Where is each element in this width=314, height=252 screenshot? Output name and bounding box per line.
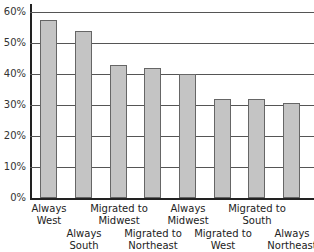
gridline [30, 167, 314, 168]
y-tick-label: 10% [0, 162, 26, 172]
bar [214, 99, 231, 198]
y-tick-label: 40% [0, 69, 26, 79]
gridline [30, 74, 314, 75]
gridline [30, 12, 314, 13]
gridline [30, 136, 314, 137]
x-axis [30, 198, 314, 200]
y-tick-label: 30% [0, 100, 26, 110]
y-tick-label: 20% [0, 131, 26, 141]
bar [40, 20, 57, 198]
x-tick-label: Migrated to Northeast [113, 228, 193, 252]
y-axis [30, 4, 32, 199]
bar [283, 103, 300, 198]
gridline [30, 105, 314, 106]
y-tick-label: 50% [0, 38, 26, 48]
x-tick-label: Always West [9, 203, 89, 227]
x-tick-label: Migrated to West [183, 228, 263, 252]
y-tick-label: 0% [0, 193, 26, 203]
bar [179, 74, 196, 198]
x-tick-label: Always South [44, 228, 124, 252]
gridline [30, 43, 314, 44]
bar-chart: 0%10%20%30%40%50%60%Always WestAlways So… [0, 0, 314, 252]
x-tick-label: Always Northeast [252, 228, 314, 252]
x-tick-label: Always Midwest [148, 203, 228, 227]
x-tick-label: Migrated to South [217, 203, 297, 227]
x-tick-label: Migrated to Midwest [79, 203, 159, 227]
bar [75, 31, 92, 198]
bar [144, 68, 161, 198]
bar [110, 65, 127, 198]
y-tick-label: 60% [0, 7, 26, 17]
bar [248, 99, 265, 198]
